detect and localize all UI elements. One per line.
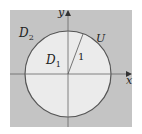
x-axis-label: x xyxy=(126,74,133,87)
y-axis-label: y xyxy=(57,6,65,19)
radius-label: 1 xyxy=(78,51,84,62)
unit-disk-diagram: y x D2 D1 U 1 xyxy=(0,0,142,134)
circle-label: U xyxy=(96,32,106,45)
